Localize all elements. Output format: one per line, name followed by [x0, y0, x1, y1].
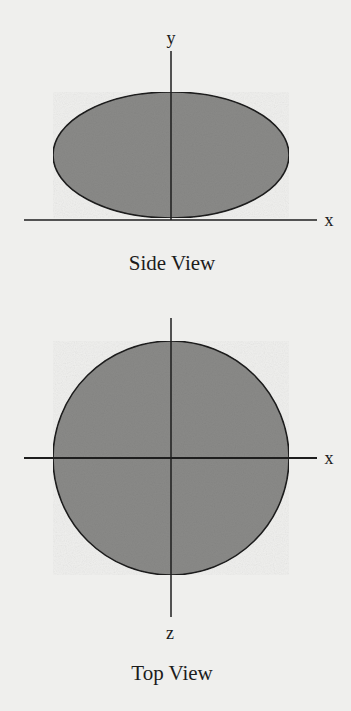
top-view-z-axis-label: z [166, 623, 174, 643]
top-view-panel: x z Top View [24, 318, 334, 685]
side-view-caption: Side View [129, 251, 216, 275]
side-view-panel: y x Side View [24, 28, 334, 275]
top-view-x-axis-label: x [325, 448, 334, 468]
side-view-x-axis-label: x [325, 210, 334, 230]
side-view-y-axis-label: y [167, 28, 176, 48]
top-view-caption: Top View [131, 661, 213, 685]
two-view-diagram: y x Side View x z Top View [0, 0, 351, 711]
figure-page: y x Side View x z Top View [0, 0, 351, 711]
